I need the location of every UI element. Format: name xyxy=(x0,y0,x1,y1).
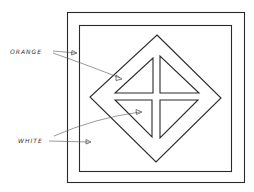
triangle-bottom-left xyxy=(115,100,152,137)
outer-square xyxy=(68,13,245,183)
white-arrow-background xyxy=(49,140,91,145)
diamond-frame xyxy=(90,35,221,162)
inner-square xyxy=(80,26,232,172)
triangle-top-right xyxy=(160,56,199,93)
label-orange: ORANGE xyxy=(10,48,42,55)
quilt-block-diagram: ORANGE WHITE xyxy=(0,0,254,192)
triangle-bottom-right xyxy=(160,100,198,138)
triangle-top-left xyxy=(115,58,153,93)
label-white: WHITE xyxy=(18,137,43,144)
